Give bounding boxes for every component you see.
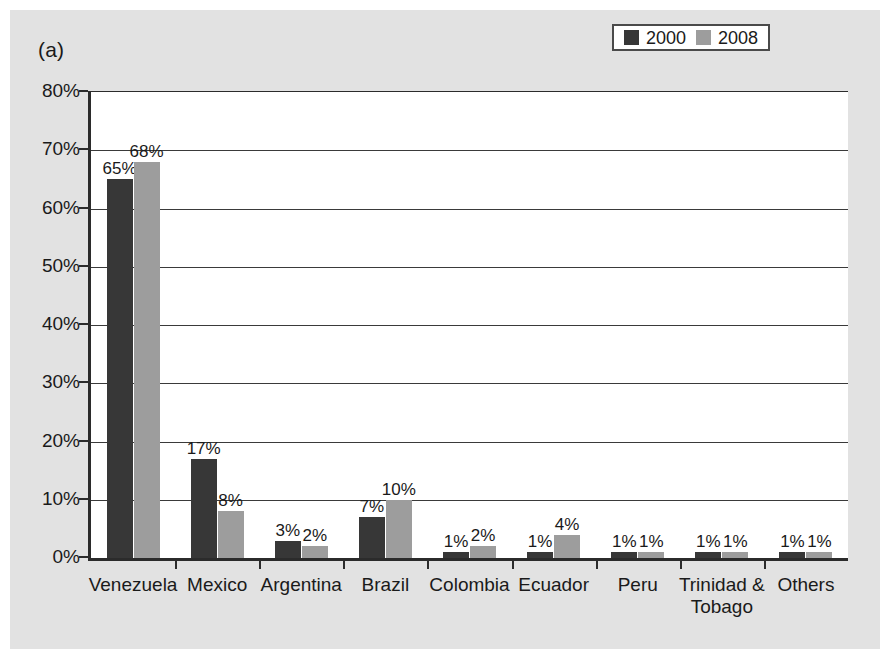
legend-swatch-icon (624, 30, 639, 45)
bar-2000-ecuador: 1% (527, 552, 553, 558)
bar-2008-argentina: 2% (302, 546, 328, 558)
bar-2000-peru: 1% (611, 552, 637, 558)
plot-area: 65%68%Venezuela17%8%Mexico3%2%Argentina7… (88, 91, 848, 558)
bar-value-label: 1% (612, 533, 637, 550)
bar-value-label: 2% (471, 527, 496, 544)
legend-swatch-icon (696, 30, 711, 45)
bar-value-label: 8% (218, 492, 243, 509)
y-axis-tick-label: 30% (42, 371, 80, 393)
bar-group: 1%1% (611, 92, 664, 558)
y-axis-tick-label: 60% (42, 197, 80, 219)
x-axis-tick-mark (512, 558, 514, 569)
bar-value-label: 65% (103, 160, 137, 177)
bar-group: 3%2% (275, 92, 328, 558)
bar-value-label: 1% (444, 533, 469, 550)
bar-group: 1%1% (779, 92, 832, 558)
x-axis-category-label: Argentina (261, 574, 342, 596)
legend-label: 2008 (718, 29, 758, 47)
bar-2008-brazil: 10% (386, 500, 412, 558)
bar-value-label: 1% (723, 533, 748, 550)
y-axis-tick-mark (79, 207, 88, 209)
bar-2008-mexico: 8% (218, 511, 244, 558)
y-axis-tick-label: 70% (42, 138, 80, 160)
x-axis-tick-mark (764, 558, 766, 569)
y-axis-tick-label: 10% (42, 488, 80, 510)
bar-2008-others: 1% (806, 552, 832, 558)
bar-value-label: 7% (360, 498, 385, 515)
bar-group: 1%4% (527, 92, 580, 558)
bar-2000-others: 1% (779, 552, 805, 558)
bar-value-label: 1% (528, 533, 553, 550)
bar-group: 17%8% (191, 92, 244, 558)
bar-value-label: 68% (130, 143, 164, 160)
bar-group: 1%1% (695, 92, 748, 558)
bar-value-label: 3% (275, 522, 300, 539)
y-axis-tick-mark (79, 265, 88, 267)
bar-value-label: 1% (780, 533, 805, 550)
bar-2000-colombia: 1% (443, 552, 469, 558)
y-axis-tick-mark (79, 440, 88, 442)
bar-2008-ecuador: 4% (554, 535, 580, 558)
bar-2000-trinidadtobago: 1% (695, 552, 721, 558)
y-axis-tick-mark (79, 381, 88, 383)
y-axis-tick-mark (79, 498, 88, 500)
x-axis-category-label: Colombia (429, 574, 509, 596)
legend-label: 2000 (646, 29, 686, 47)
bar-2008-colombia: 2% (470, 546, 496, 558)
y-axis-tick-label: 40% (42, 313, 80, 335)
bar-2000-brazil: 7% (359, 517, 385, 558)
x-axis-category-label: Trinidad & Tobago (679, 574, 765, 618)
bar-value-label: 1% (639, 533, 664, 550)
x-axis-category-label: Mexico (187, 574, 247, 596)
legend-entry-2000: 2000 (624, 29, 686, 47)
x-axis-tick-mark (259, 558, 261, 569)
y-axis-tick-label: 80% (42, 80, 80, 102)
y-axis-tick-label: 50% (42, 255, 80, 277)
bar-2000-venezuela: 65% (107, 179, 133, 558)
x-axis-tick-mark (343, 558, 345, 569)
legend-entry-2008: 2008 (696, 29, 758, 47)
x-axis-tick-mark (175, 558, 177, 569)
y-axis-tick-label: 20% (42, 430, 80, 452)
x-axis-tick-mark (427, 558, 429, 569)
bar-group: 1%2% (443, 92, 496, 558)
bar-value-label: 10% (382, 481, 416, 498)
bar-value-label: 2% (302, 527, 327, 544)
bar-value-label: 1% (696, 533, 721, 550)
y-axis-labels: 0%10%20%30%40%50%60%70%80% (10, 10, 80, 649)
x-axis-tick-mark (596, 558, 598, 569)
bar-value-label: 17% (187, 440, 221, 457)
y-axis-tick-label: 0% (53, 546, 80, 568)
x-axis-category-label: Others (777, 574, 834, 596)
x-axis-category-label: Peru (618, 574, 658, 596)
bar-2000-argentina: 3% (275, 541, 301, 558)
bar-group: 7%10% (359, 92, 412, 558)
y-axis-tick-mark (79, 90, 88, 92)
y-axis-tick-mark (79, 556, 88, 558)
x-axis-line (88, 558, 848, 561)
bar-2008-trinidadtobago: 1% (722, 552, 748, 558)
bar-2008-peru: 1% (638, 552, 664, 558)
y-axis-tick-mark (79, 148, 88, 150)
bar-2008-venezuela: 68% (134, 162, 160, 558)
x-axis-category-label: Ecuador (518, 574, 589, 596)
x-axis-category-label: Venezuela (89, 574, 178, 596)
bar-value-label: 1% (807, 533, 832, 550)
y-axis-tick-mark (79, 323, 88, 325)
bar-value-label: 4% (555, 516, 580, 533)
chart-legend: 20002008 (612, 24, 770, 51)
plot-inner: 65%68%Venezuela17%8%Mexico3%2%Argentina7… (91, 92, 848, 558)
bar-2000-mexico: 17% (191, 459, 217, 558)
figure-panel: (a) 0%10%20%30%40%50%60%70%80% 65%68%Ven… (10, 10, 880, 649)
bar-group: 65%68% (107, 92, 160, 558)
x-axis-tick-mark (680, 558, 682, 569)
x-axis-category-label: Brazil (362, 574, 410, 596)
